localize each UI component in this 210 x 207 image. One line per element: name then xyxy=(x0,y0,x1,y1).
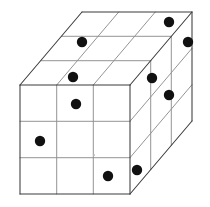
speck-front xyxy=(93,154,95,156)
dot-marker-top-far-c3 xyxy=(164,17,174,27)
specks-group xyxy=(93,154,95,156)
dot-marker-top-near-c2 xyxy=(68,72,78,82)
cube-grid-svg: Three-dimensional cube grid with marked … xyxy=(0,0,210,207)
dot-marker-right-r1-c1 xyxy=(147,73,157,83)
cube-grid-figure: Three-dimensional cube grid with marked … xyxy=(0,0,210,207)
dot-marker-right-r3-c1 xyxy=(132,165,142,175)
dot-marker-front-r1-c2 xyxy=(71,99,81,109)
face-fills xyxy=(20,12,192,194)
dot-marker-top-mid-c2 xyxy=(77,37,87,47)
dot-marker-front-r2-c1 xyxy=(35,136,45,146)
dot-marker-front-r3-c3 xyxy=(103,171,113,181)
dot-marker-right-r2-c2 xyxy=(164,90,174,100)
dot-marker-right-r1-c3 xyxy=(183,37,193,47)
